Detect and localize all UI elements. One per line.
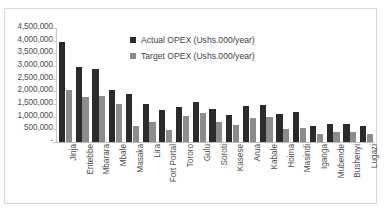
bar-actual — [327, 124, 333, 142]
x-axis-category-label: Lugazi — [370, 144, 379, 168]
x-axis-category-label: Kasese — [236, 144, 245, 171]
bar-target — [66, 90, 72, 142]
y-axis-tick-label: 2,500,000 — [5, 74, 53, 82]
y-axis-tick-label: - — [5, 137, 53, 145]
x-axis-category-label: Mbale — [119, 144, 128, 166]
bar-actual — [193, 102, 199, 142]
x-axis-category-label: Arua — [253, 144, 262, 161]
bar-group — [291, 28, 308, 142]
bar-target — [99, 96, 105, 142]
x-axis-category-label: Iganga — [320, 144, 329, 169]
y-axis-tick-mark — [53, 142, 56, 143]
bar-target — [266, 117, 272, 142]
y-axis-tick-mark — [53, 41, 56, 42]
bar-target — [82, 97, 88, 142]
y-axis-tick-mark — [53, 79, 56, 80]
bar-actual — [276, 114, 282, 142]
bar-actual — [159, 110, 165, 142]
bar-actual — [59, 42, 65, 142]
x-axis-category-label: Kabale — [270, 144, 279, 170]
bar-target — [233, 125, 239, 142]
x-axis-category-label: Bushenyi — [353, 144, 362, 178]
y-axis-tick-mark — [53, 91, 56, 92]
legend-label-actual: Actual OPEX (Ushs.000/year) — [141, 35, 255, 45]
y-axis-tick-mark — [53, 28, 56, 29]
y-axis-tick-mark — [53, 117, 56, 118]
bar-actual — [92, 69, 98, 142]
bar-target — [116, 104, 122, 143]
bar-target — [283, 129, 289, 142]
bar-actual — [176, 107, 182, 142]
x-axis-category-label: Gulu — [203, 144, 212, 161]
bar-group — [74, 28, 91, 142]
legend-swatch-actual-icon — [130, 37, 136, 43]
bar-actual — [126, 94, 132, 142]
y-axis-tick-mark — [53, 129, 56, 130]
x-axis-category-label: Mubende — [337, 144, 346, 178]
y-axis-tick-label: 4,500,000 — [5, 23, 53, 31]
bar-target — [216, 122, 222, 142]
chart-container: -500,0001,000,0001,500,0002,000,0002,500… — [4, 8, 377, 204]
x-axis-category-label: Fort Portal — [169, 144, 178, 182]
bar-target — [300, 128, 306, 142]
x-axis-category-label: Entebbe — [86, 144, 95, 175]
y-axis-tick-label: 3,000,000 — [5, 61, 53, 69]
bar-target — [133, 126, 139, 142]
bar-target — [200, 113, 206, 142]
x-axis-category-label: Hoima — [287, 144, 296, 168]
chart-legend: Actual OPEX (Ushs.000/year) Target OPEX … — [130, 35, 255, 67]
bar-target — [250, 118, 256, 142]
legend-item-target: Target OPEX (Ushs.000/year) — [130, 51, 255, 61]
bar-group — [57, 28, 74, 142]
y-axis-tick-mark — [53, 104, 56, 105]
bar-actual — [243, 106, 249, 142]
bar-actual — [109, 90, 115, 142]
y-axis-tick-label: 500,000 — [5, 124, 53, 132]
bar-actual — [226, 115, 232, 142]
legend-swatch-target-icon — [130, 53, 136, 59]
bar-target — [183, 116, 189, 142]
x-axis-category-label: Masaka — [136, 144, 145, 173]
bar-group — [258, 28, 275, 142]
bar-target — [149, 122, 155, 142]
bar-actual — [76, 67, 82, 142]
bar-target — [166, 130, 172, 142]
legend-label-target: Target OPEX (Ushs.000/year) — [141, 51, 255, 61]
bar-actual — [343, 124, 349, 142]
bar-actual — [310, 126, 316, 142]
bar-target — [350, 132, 356, 142]
x-axis-category-label: Lira — [153, 144, 162, 158]
bar-group — [107, 28, 124, 142]
x-axis-category-label: Tororo — [186, 144, 195, 167]
y-axis: -500,0001,000,0001,500,0002,000,0002,500… — [5, 9, 53, 142]
y-axis-tick-label: 2,000,000 — [5, 86, 53, 94]
bar-group — [342, 28, 359, 142]
bar-actual — [209, 109, 215, 142]
bar-group — [275, 28, 292, 142]
bar-actual — [360, 126, 366, 142]
bar-actual — [260, 105, 266, 142]
y-axis-tick-label: 1,000,000 — [5, 112, 53, 120]
y-axis-tick-mark — [53, 66, 56, 67]
bar-actual — [293, 112, 299, 142]
x-axis-category-label: Masindi — [303, 144, 312, 172]
y-axis-tick-label: 3,500,000 — [5, 48, 53, 56]
bar-group — [308, 28, 325, 142]
x-axis-category-labels: JinjaEntebbeMbararaMbaleMasakaLiraFort P… — [57, 144, 375, 202]
bar-target — [333, 132, 339, 142]
bar-actual — [143, 104, 149, 142]
bar-group — [325, 28, 342, 142]
bar-group — [358, 28, 375, 142]
x-axis-category-label: Jinja — [69, 144, 78, 161]
bar-target — [317, 134, 323, 142]
y-axis-tick-label: 1,500,000 — [5, 99, 53, 107]
bar-group — [90, 28, 107, 142]
bar-target — [367, 134, 373, 142]
y-axis-tick-label: 4,000,000 — [5, 36, 53, 44]
y-axis-tick-mark — [53, 53, 56, 54]
x-axis-category-label: Soroti — [220, 144, 229, 165]
legend-item-actual: Actual OPEX (Ushs.000/year) — [130, 35, 255, 45]
x-axis-category-label: Mbarara — [102, 144, 111, 175]
